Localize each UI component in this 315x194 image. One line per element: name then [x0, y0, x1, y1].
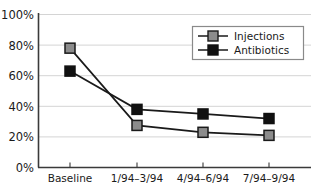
series-antibiotics: [65, 66, 274, 123]
y-tick-label-40: 40%: [8, 100, 34, 114]
series-line-antibiotics: [70, 71, 269, 118]
legend-marker-antibiotics-icon: [208, 45, 218, 55]
data-point-antibiotics-3: [264, 114, 274, 124]
data-point-injections-3: [264, 130, 274, 140]
legend-label-antibiotics: Antibiotics: [234, 44, 289, 56]
y-tick-label-60: 60%: [8, 69, 34, 83]
y-axis-tick-labels: 100% 80% 60% 40% 20% 0%: [1, 8, 34, 175]
legend-label-injections: Injections: [234, 30, 285, 42]
y-tick-label-20: 20%: [8, 130, 34, 144]
x-tick-label-baseline: Baseline: [48, 172, 93, 184]
y-tick-label-0: 0%: [16, 161, 34, 175]
data-point-injections-1: [132, 120, 142, 130]
legend-entry-injections[interactable]: Injections: [198, 30, 285, 42]
data-point-antibiotics-0: [65, 66, 75, 76]
legend-entry-antibiotics[interactable]: Antibiotics: [198, 44, 289, 56]
legend-marker-injections-icon: [208, 31, 218, 41]
data-point-injections-2: [198, 127, 208, 137]
x-tick-label-q1: 1/94–3/94: [111, 172, 164, 184]
data-point-antibiotics-1: [132, 104, 142, 114]
y-tick-label-100: 100%: [1, 8, 34, 22]
x-tick-label-q3: 7/94–9/94: [243, 172, 296, 184]
y-tick-label-80: 80%: [8, 39, 34, 53]
line-chart: 100% 80% 60% 40% 20% 0% Baseline 1/94–3/…: [0, 0, 315, 194]
legend[interactable]: Injections Antibiotics: [193, 27, 304, 60]
x-axis-tick-labels: Baseline 1/94–3/94 4/94–6/94 7/94–9/94: [48, 172, 296, 184]
x-tick-label-q2: 4/94–6/94: [177, 172, 230, 184]
series-line-injections: [70, 48, 269, 135]
data-point-antibiotics-2: [198, 109, 208, 119]
chart-canvas: 100% 80% 60% 40% 20% 0% Baseline 1/94–3/…: [0, 0, 315, 194]
data-point-injections-0: [65, 43, 75, 53]
